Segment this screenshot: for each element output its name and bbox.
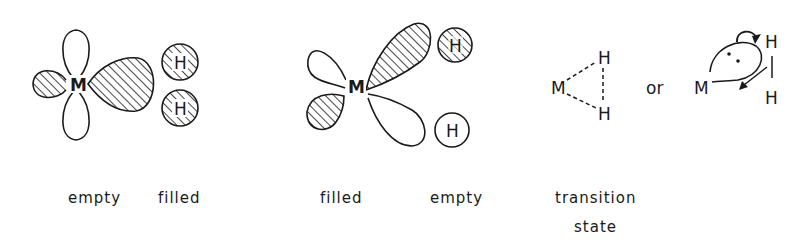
lower-right-lobe-empty	[368, 94, 425, 146]
label-metal-orbital-filled: filled	[320, 189, 363, 207]
panel-3-transition-state-triangle: M H H	[551, 48, 611, 124]
orbital-diagram-canvas: M H H M H H M H H or M	[0, 0, 808, 247]
hydrogen-atom-label: H	[765, 32, 778, 52]
label-metal-orbital-empty: empty	[68, 189, 121, 207]
straight-arrow	[744, 67, 767, 85]
lower-left-lobe-shaded	[307, 94, 344, 129]
upper-lobe-empty	[63, 30, 89, 78]
electron-dot	[736, 59, 740, 63]
dashed-bond	[567, 62, 596, 80]
lower-lobe-empty	[63, 92, 89, 140]
metal-atom-label: M	[70, 75, 87, 95]
panel-3-orbital-interaction: M H H	[694, 32, 778, 108]
metal-atom-label: M	[348, 77, 365, 97]
hydrogen-atom-label: H	[598, 104, 611, 124]
electron-dot	[727, 52, 731, 56]
metal-atom-label: M	[694, 78, 709, 98]
label-state: state	[574, 218, 617, 236]
metal-atom-label: M	[551, 78, 566, 98]
panel-2-hydrogen-orbitals: H H	[435, 28, 472, 147]
label-hydrogen-orbital-empty: empty	[430, 189, 483, 207]
or-connector: or	[646, 78, 663, 98]
arrow-head-icon	[752, 34, 761, 44]
hydrogen-atom-label: H	[598, 48, 611, 68]
label-hydrogen-orbital-filled: filled	[158, 189, 201, 207]
hydrogen-atom-label: H	[174, 99, 187, 119]
hydrogen-atom-label: H	[449, 36, 462, 56]
hydrogen-atom-label: H	[446, 121, 459, 141]
label-transition: transition	[555, 189, 636, 207]
hydrogen-atom-label: H	[765, 88, 778, 108]
right-lobe-shaded	[88, 58, 154, 111]
panel-1-metal-orbitals: M	[33, 30, 154, 140]
panel-2-metal-orbitals: M	[307, 23, 431, 146]
upper-left-lobe-empty	[308, 51, 346, 88]
panel-1-hydrogen-orbitals: H H	[162, 44, 198, 126]
dashed-bond	[567, 94, 596, 108]
metal-lobe	[710, 42, 762, 82]
left-lobe-shaded	[33, 71, 66, 98]
hydrogen-atom-label: H	[174, 53, 187, 73]
upper-right-lobe-shaded	[366, 23, 431, 90]
